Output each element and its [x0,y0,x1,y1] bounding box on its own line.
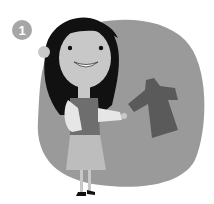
left-shoe [76,192,86,196]
skirt [66,135,106,170]
right-leg [88,170,91,192]
neck [78,84,90,98]
ear [38,46,50,58]
girl-with-coat-illustration [0,0,214,204]
right-eye [99,46,103,50]
left-eye [68,46,72,50]
hand [121,113,127,119]
face [59,28,111,88]
left-leg [80,170,83,192]
